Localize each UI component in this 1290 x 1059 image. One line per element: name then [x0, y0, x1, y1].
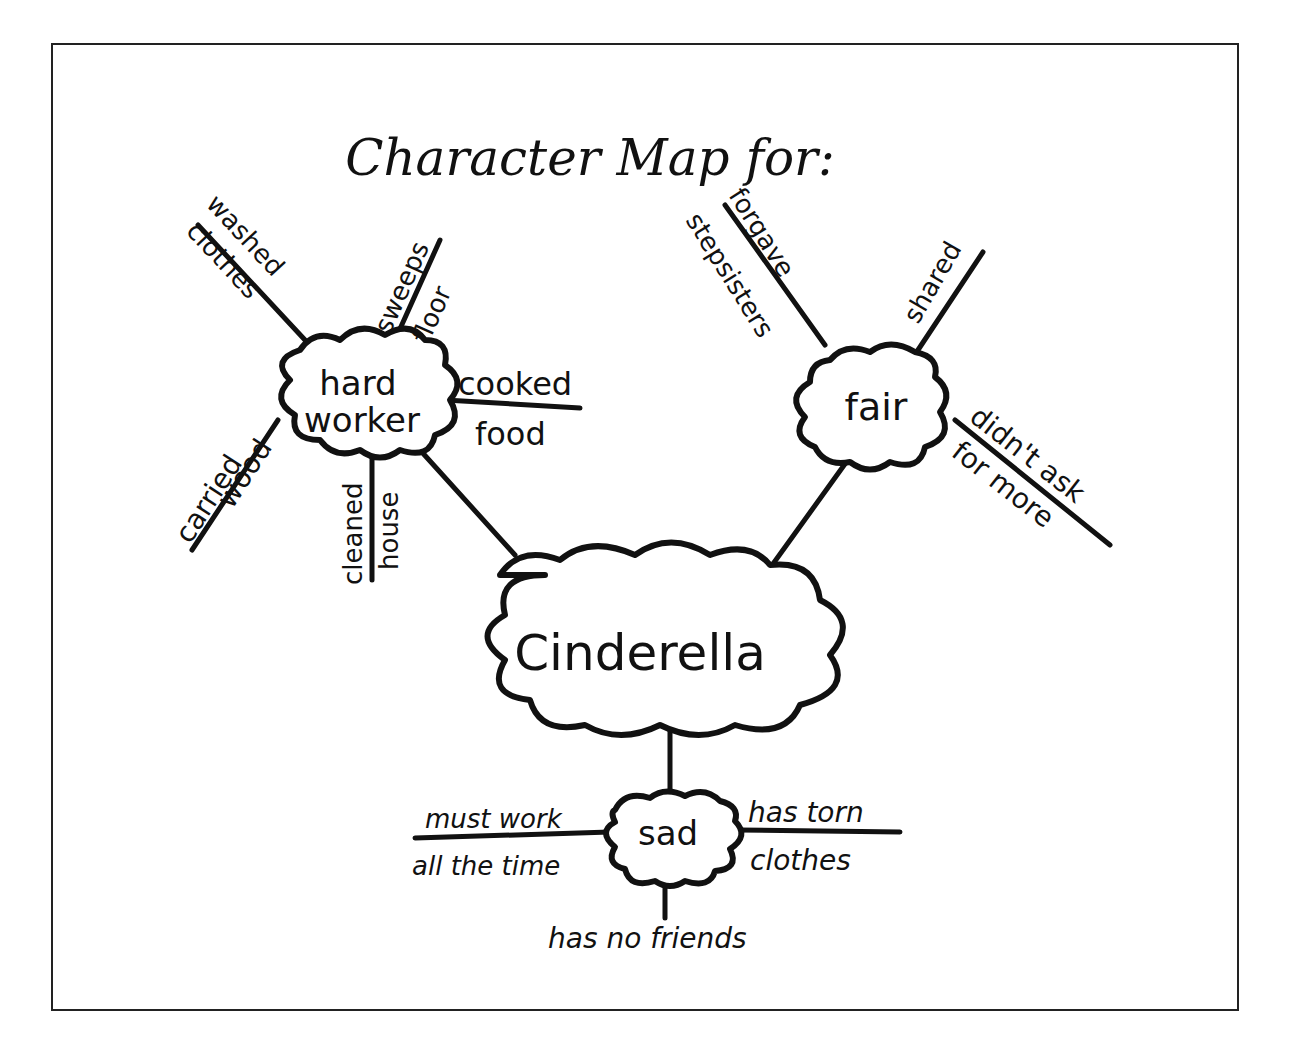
- trait-hard-worker-line1: hard: [319, 363, 396, 403]
- trait-sad: sad: [638, 813, 698, 853]
- detail-all-the-time: all the time: [412, 851, 560, 881]
- trait-hard-worker-line2: worker: [304, 400, 420, 440]
- detail-no-friends: has no friends: [548, 922, 747, 955]
- center-cinderella: Cinderella: [514, 624, 766, 682]
- detail-cleaned: cleaned: [338, 483, 368, 585]
- detail-must-work: must work: [425, 804, 563, 834]
- detail-food: food: [475, 415, 546, 453]
- detail-cooked: cooked: [458, 365, 572, 403]
- branch-has-torn: [738, 830, 900, 832]
- detail-house: house: [374, 492, 404, 570]
- connector-fair: [765, 450, 855, 575]
- detail-shared: shared: [897, 236, 967, 328]
- title: Character Map for:: [345, 129, 835, 187]
- detail-has-torn: has torn: [748, 796, 864, 829]
- connector-hard-worker: [420, 450, 515, 555]
- trait-fair: fair: [845, 385, 908, 429]
- detail-clothes-torn: clothes: [750, 844, 851, 877]
- character-map: Character Map for: hard worker fair Cind…: [0, 0, 1290, 1059]
